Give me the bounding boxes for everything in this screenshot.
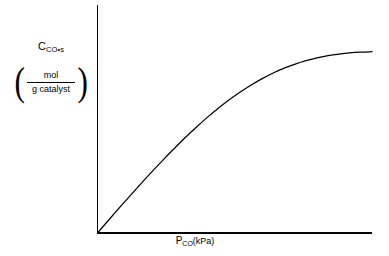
y-axis-label: CCO•s ( mol g catalyst ) bbox=[8, 40, 94, 99]
plot-area bbox=[0, 0, 389, 256]
isotherm-curve bbox=[98, 52, 373, 233]
x-axis-label: PCO(kPa) bbox=[140, 235, 250, 250]
units-denominator: g catalyst bbox=[30, 83, 72, 95]
concentration-symbol-subscript: CO•s bbox=[46, 45, 64, 54]
units-numerator: mol bbox=[41, 70, 62, 82]
concentration-symbol-base: C bbox=[38, 40, 46, 52]
right-parenthesis: ) bbox=[77, 65, 87, 99]
concentration-symbol: CCO•s bbox=[8, 40, 94, 56]
y-axis-units: ( mol g catalyst ) bbox=[8, 65, 94, 99]
pressure-symbol-subscript: CO bbox=[182, 240, 193, 247]
left-parenthesis: ( bbox=[14, 65, 24, 99]
units-fraction: mol g catalyst bbox=[27, 70, 75, 95]
adsorption-isotherm-figure: CCO•s ( mol g catalyst ) PCO(kPa) bbox=[0, 0, 389, 256]
pressure-unit: (kPa) bbox=[193, 236, 215, 246]
